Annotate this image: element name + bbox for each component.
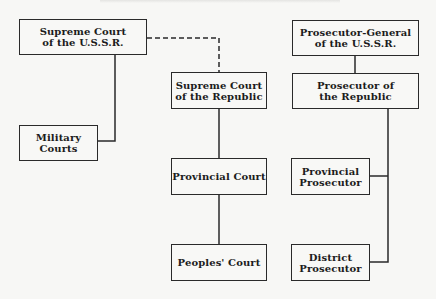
- node-label: District: [299, 252, 361, 263]
- connector-prorepublic-district: [370, 109, 388, 262]
- node-prosecutor-general-ussr: Prosecutor-General of the U.S.S.R.: [292, 20, 419, 56]
- node-label: of the U.S.S.R.: [40, 37, 127, 48]
- node-label: Military: [36, 132, 81, 143]
- node-label: Provincial: [299, 166, 361, 177]
- node-label: Courts: [36, 143, 81, 154]
- node-prosecutor-republic: Prosecutor of the Republic: [292, 73, 419, 109]
- node-label: the Republic: [317, 91, 394, 102]
- node-label: Prosecutor: [299, 263, 361, 274]
- node-label: Supreme Court: [40, 26, 127, 37]
- node-label: of the U.S.S.R.: [300, 38, 411, 49]
- node-label: Prosecutor of: [317, 80, 394, 91]
- node-provincial-court: Provincial Court: [171, 158, 267, 195]
- node-peoples-court: Peoples' Court: [171, 244, 267, 281]
- connector-ussr-republic-dashed: [147, 38, 219, 72]
- node-district-prosecutor: District Prosecutor: [291, 244, 370, 281]
- node-supreme-court-ussr: Supreme Court of the U.S.S.R.: [19, 19, 147, 55]
- node-label: Prosecutor: [299, 177, 361, 188]
- node-provincial-prosecutor: Provincial Prosecutor: [291, 158, 370, 195]
- node-label: Prosecutor-General: [300, 27, 411, 38]
- connector-ussr-military: [98, 54, 115, 141]
- node-label: Peoples' Court: [178, 257, 261, 268]
- node-label: Provincial Court: [172, 171, 265, 182]
- node-label: of the Republic: [175, 91, 262, 102]
- node-supreme-court-republic: Supreme Court of the Republic: [171, 72, 267, 109]
- node-military-courts: Military Courts: [19, 125, 98, 161]
- node-label: Supreme Court: [175, 80, 262, 91]
